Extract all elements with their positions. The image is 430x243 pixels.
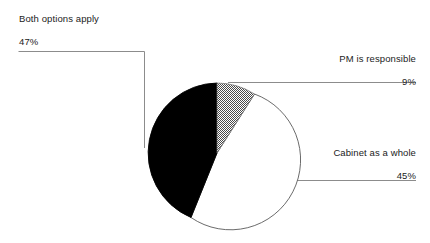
callout-both-options-title: Both options apply (19, 14, 99, 24)
callout-pm-responsible: PM is responsible 9% (339, 54, 416, 86)
callout-both-options: Both options apply 47% (19, 14, 99, 46)
callout-both-options-value: 47% (19, 37, 99, 47)
leader-line-both-options (19, 52, 145, 149)
pie-chart-figure: Both options apply 47% PM is responsible… (0, 0, 430, 243)
callout-pm-responsible-title: PM is responsible (339, 54, 416, 64)
callout-cabinet-whole-value: 45% (333, 171, 416, 181)
callout-cabinet-whole: Cabinet as a whole 45% (333, 148, 416, 180)
callout-cabinet-whole-title: Cabinet as a whole (333, 148, 416, 158)
callout-pm-responsible-value: 9% (339, 77, 416, 87)
